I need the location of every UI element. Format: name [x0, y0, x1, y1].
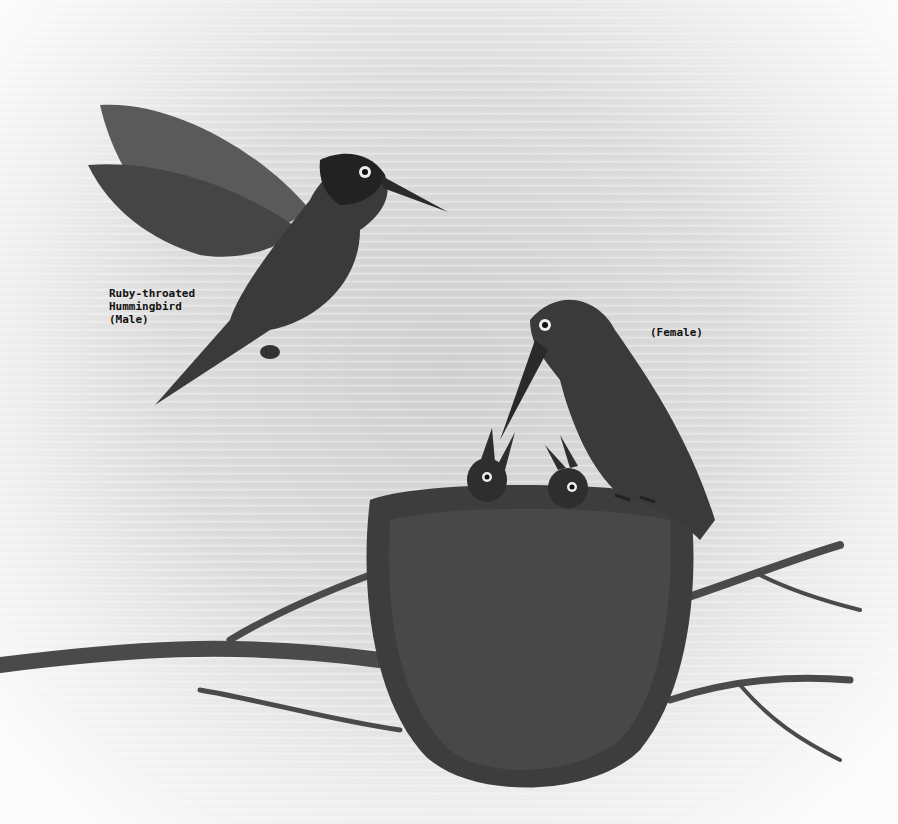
male-hummingbird — [88, 105, 448, 405]
female-label: (Female) — [650, 326, 703, 339]
nest — [367, 485, 694, 788]
illustration: Ruby-throated Hummingbird (Male) (Female… — [0, 0, 898, 824]
illustration-art — [0, 0, 898, 824]
male-label: Ruby-throated Hummingbird (Male) — [109, 287, 195, 326]
